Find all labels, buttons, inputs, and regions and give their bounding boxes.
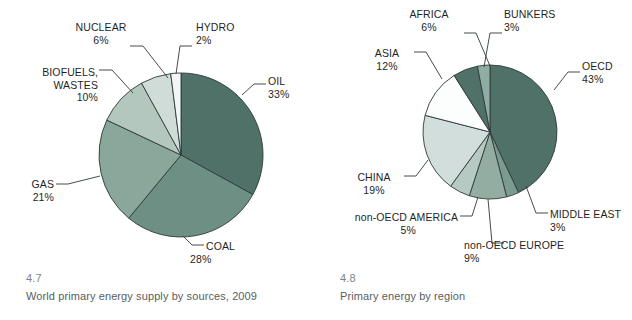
slice-label-biofuels-pct: 10% <box>10 91 98 104</box>
slice-label-coal: COAL 28% <box>206 240 266 265</box>
slice-label-africa-pct: 6% <box>396 21 462 34</box>
figure-4-7: BIOFUELS, WASTES 10% NUCLEAR 6% HYDRO 2%… <box>0 0 318 320</box>
slice-label-bunkers-pct: 3% <box>504 21 584 34</box>
slice-label-hydro-pct: 2% <box>196 34 266 47</box>
slice-label-middle-east: MIDDLE EAST 3% <box>550 208 632 233</box>
figure-number-4-8: 4.8 <box>340 272 630 284</box>
slice-label-non-oecd-america-name: non-OECD AMERICA <box>318 211 458 224</box>
slice-label-oil-name: OIL <box>268 75 316 88</box>
slice-label-asia: ASIA 12% <box>362 47 412 72</box>
slice-label-middle-east-pct: 3% <box>550 221 632 234</box>
slice-label-nuclear-pct: 6% <box>62 34 140 47</box>
slice-label-africa: AFRICA 6% <box>396 8 462 33</box>
leader-line <box>242 84 266 95</box>
slice-label-biofuels-name1: BIOFUELS, <box>10 66 98 79</box>
slice-label-coal-pct: 28% <box>190 253 266 266</box>
leader-line <box>484 33 502 67</box>
slice-label-bunkers: BUNKERS 3% <box>504 8 584 33</box>
slice-label-biofuels-name2: WASTES <box>10 79 98 92</box>
slice-label-china-name: CHINA <box>346 171 402 184</box>
slice-label-non-oecd-europe-name: non-OECD EUROPE <box>464 239 604 252</box>
slice-label-non-oecd-europe: non-OECD EUROPE 9% <box>464 239 604 264</box>
slice-label-middle-east-name: MIDDLE EAST <box>550 208 632 221</box>
leader-line <box>130 46 168 78</box>
figure-caption-4-7: World primary energy supply by sources, … <box>26 290 316 302</box>
slice-label-non-oecd-america-pct: 5% <box>318 224 416 237</box>
leader-line <box>460 197 478 216</box>
slice-label-bunkers-name: BUNKERS <box>504 8 584 21</box>
pie-svg-left <box>0 0 318 266</box>
slice-label-hydro: HYDRO 2% <box>196 21 266 46</box>
slice-label-non-oecd-europe-pct: 9% <box>464 252 604 265</box>
slice-label-gas: GAS 21% <box>8 178 54 203</box>
pie-slices-right <box>423 65 557 199</box>
slice-label-oil-pct: 33% <box>268 88 316 101</box>
leader-line <box>99 70 133 93</box>
slice-label-gas-name: GAS <box>8 178 54 191</box>
figure-caption-4-8: Primary energy by region <box>340 290 630 302</box>
slice-label-africa-name: AFRICA <box>396 8 462 21</box>
pie-slices-left <box>99 73 263 237</box>
slice-label-non-oecd-america: non-OECD AMERICA 5% <box>318 211 458 236</box>
slice-label-china-pct: 19% <box>346 184 402 197</box>
slice-label-hydro-name: HYDRO <box>196 21 266 34</box>
leader-line <box>464 33 490 66</box>
slice-label-oecd-pct: 43% <box>582 73 632 86</box>
leader-line <box>554 72 580 90</box>
slice-label-china: CHINA 19% <box>346 171 402 196</box>
pie-chart-energy-by-region: AFRICA 6% BUNKERS 3% ASIA 12% OECD 43% C… <box>318 0 632 266</box>
figure-number-4-7: 4.7 <box>26 272 316 284</box>
leader-line <box>488 199 504 243</box>
pie-chart-energy-sources: BIOFUELS, WASTES 10% NUCLEAR 6% HYDRO 2%… <box>0 0 318 266</box>
leader-line <box>414 52 442 79</box>
slice-label-gas-pct: 21% <box>8 191 54 204</box>
leader-line <box>183 236 204 245</box>
slice-label-nuclear: NUCLEAR 6% <box>62 21 140 46</box>
slice-label-oil: OIL 33% <box>268 75 316 100</box>
leader-line <box>526 186 548 213</box>
slice-label-biofuels: BIOFUELS, WASTES 10% <box>10 66 98 104</box>
slice-label-asia-name: ASIA <box>362 47 412 60</box>
slice-label-nuclear-name: NUCLEAR <box>62 21 140 34</box>
leader-line <box>404 160 428 176</box>
figure-4-8: AFRICA 6% BUNKERS 3% ASIA 12% OECD 43% C… <box>318 0 632 320</box>
slice-label-oecd-name: OECD <box>582 60 632 73</box>
leader-line <box>176 46 192 74</box>
leader-line <box>56 176 100 184</box>
slice-label-coal-name: COAL <box>206 240 266 253</box>
slice-label-asia-pct: 12% <box>362 60 412 73</box>
slice-label-oecd: OECD 43% <box>582 60 632 85</box>
caption-4-8: 4.8 Primary energy by region <box>340 272 630 302</box>
caption-4-7: 4.7 World primary energy supply by sourc… <box>26 272 316 302</box>
